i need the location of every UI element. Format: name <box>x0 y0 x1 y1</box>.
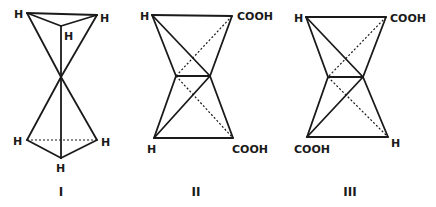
atom-label: H <box>56 162 65 175</box>
atom-label: H <box>64 30 73 43</box>
atom-label: COOH <box>294 143 330 156</box>
figure-ii: H COOH H COOH II <box>140 10 273 199</box>
atom-label: H <box>100 12 109 25</box>
atom-label: H <box>13 135 22 148</box>
atom-label: H <box>391 137 400 150</box>
figure-caption: I <box>59 185 63 199</box>
stereo-diagram: H H H H H H I H COOH H COOH II <box>0 0 436 207</box>
figure-caption: II <box>192 185 201 199</box>
atom-label: H <box>140 10 149 23</box>
atom-label: COOH <box>237 10 273 23</box>
atom-label: COOH <box>390 12 426 25</box>
figure-caption: III <box>343 185 356 199</box>
atom-label: H <box>14 8 23 21</box>
figure-iii: H COOH COOH H III <box>294 12 426 199</box>
atom-label: COOH <box>232 143 268 156</box>
atom-label: H <box>147 143 156 156</box>
figure-i: H H H H H H I <box>13 8 110 199</box>
atom-label: H <box>101 136 110 149</box>
atom-label: H <box>294 12 303 25</box>
